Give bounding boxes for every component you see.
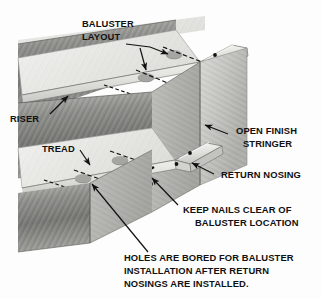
label-return-nosing: RETURN NOSING [221, 169, 301, 180]
nail-mark [188, 151, 192, 155]
label-riser: RISER [10, 113, 39, 124]
label-baluster-layout-line1: BALUSTER [82, 18, 134, 29]
illustration-stage: BALUSTER LAYOUT RISER TREAD OPEN FINISH … [0, 0, 321, 299]
note-holes-bored-line2: INSTALLATION AFTER RETURN [124, 265, 269, 276]
label-open-finish-stringer-line1: OPEN FINISH [236, 125, 297, 136]
label-baluster-layout-line2: LAYOUT [82, 31, 120, 42]
note-keep-nails-line1: KEEP NAILS CLEAR OF [183, 204, 292, 215]
label-tread: TREAD [42, 143, 75, 154]
note-holes-bored-line1: HOLES ARE BORED FOR BALUSTER [124, 252, 294, 263]
nail-mark [213, 53, 217, 57]
note-holes-bored-line3: NOSINGS ARE INSTALLED. [124, 278, 249, 289]
note-keep-nails-line2: BALUSTER LOCATION [195, 217, 299, 228]
label-open-finish-stringer-line2: STRINGER [243, 138, 292, 149]
nail-mark [175, 162, 179, 166]
stair-detail-figure: BALUSTER LAYOUT RISER TREAD OPEN FINISH … [0, 0, 321, 299]
